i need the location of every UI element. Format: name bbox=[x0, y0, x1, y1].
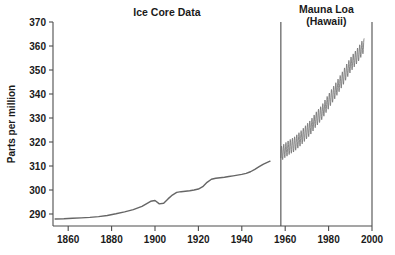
mauna-loa-data-line bbox=[281, 39, 364, 160]
x-axis-tick-label: 1940 bbox=[231, 234, 254, 245]
y-axis-tick-label: 300 bbox=[29, 185, 46, 196]
y-axis-tick-label: 370 bbox=[29, 17, 46, 28]
y-axis-tick-label: 310 bbox=[29, 161, 46, 172]
x-axis-tick-label: 1880 bbox=[100, 234, 123, 245]
x-axis-tick-label: 1980 bbox=[317, 234, 340, 245]
y-axis-group: 290300310320330340350360370 bbox=[29, 17, 53, 227]
x-axis-tick-label: 1920 bbox=[187, 234, 210, 245]
x-axis-tick-labels: 18601880190019201940196019802000 bbox=[57, 234, 383, 245]
y-axis-tick-label: 330 bbox=[29, 113, 46, 124]
x-axis-tick-label: 1900 bbox=[144, 234, 167, 245]
x-axis-tick-label: 1960 bbox=[274, 234, 297, 245]
x-axis-tick-label: 2000 bbox=[361, 234, 384, 245]
y-axis-tick-label: 360 bbox=[29, 41, 46, 52]
y-axis-tick-label: 350 bbox=[29, 65, 46, 76]
y-axis-title: Parts per million bbox=[6, 85, 17, 163]
y-axis-tick-label: 340 bbox=[29, 89, 46, 100]
chart-canvas: 290300310320330340350360370 186018801900… bbox=[0, 0, 395, 255]
x-axis-tick-label: 1860 bbox=[57, 234, 80, 245]
x-axis-ticks bbox=[68, 226, 372, 231]
y-axis-ticks bbox=[49, 22, 53, 214]
ice-core-panel-title: Ice Core Data bbox=[133, 6, 200, 18]
co2-concentration-chart: 290300310320330340350360370 186018801900… bbox=[0, 0, 395, 255]
y-axis-tick-label: 290 bbox=[29, 209, 46, 220]
ice-core-data-line bbox=[55, 161, 270, 219]
mauna-loa-panel-title-line1: Mauna Loa bbox=[299, 3, 354, 15]
mauna-loa-panel-title-line2: (Hawaii) bbox=[306, 15, 346, 27]
y-axis-tick-label: 320 bbox=[29, 137, 46, 148]
x-axis-group: 18601880190019201940196019802000 bbox=[53, 226, 384, 245]
y-axis-tick-labels: 290300310320330340350360370 bbox=[29, 17, 46, 220]
